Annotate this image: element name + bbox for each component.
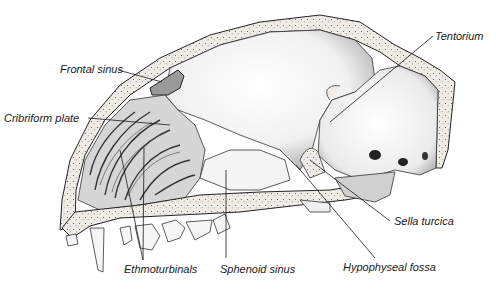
label-tentorium: Tentorium	[435, 31, 484, 42]
label-frontal-sinus: Frontal sinus	[60, 64, 123, 75]
label-cribriform-plate: Cribriform plate	[4, 113, 79, 124]
skull-drawing	[0, 0, 496, 304]
label-sella-turcica: Sella turcica	[394, 216, 454, 227]
label-sphenoid-sinus: Sphenoid sinus	[220, 264, 295, 275]
skull-sagittal-illustration: Frontal sinus Cribriform plate Tentorium…	[0, 0, 496, 304]
sphenoid-sinus-cavity	[200, 150, 290, 190]
label-ethmoturbinals: Ethmoturbinals	[124, 264, 197, 275]
label-hypophyseal-fossa: Hypophyseal fossa	[343, 262, 436, 273]
